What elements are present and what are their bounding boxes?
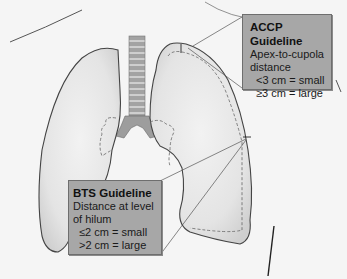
accp-large-criterion: ≥3 cm = large [250, 87, 326, 100]
accp-guideline-callout: ACCP Guideline Apex-to-cupola distance <… [242, 14, 332, 90]
bts-small-criterion: ≤2 cm = small [73, 226, 157, 239]
accp-title: ACCP Guideline [250, 20, 326, 48]
diagram-canvas: ACCP Guideline Apex-to-cupola distance <… [0, 0, 347, 279]
bts-large-criterion: >2 cm = large [73, 239, 157, 252]
left-shoulder-line [10, 10, 82, 42]
accp-small-criterion: <3 cm = small [250, 74, 326, 87]
accp-line-2: distance [250, 61, 326, 74]
bts-line-1: Distance at level [73, 200, 157, 213]
right-side-line [336, 80, 341, 92]
bts-title: BTS Guideline [73, 186, 157, 200]
right-rib-line [268, 226, 274, 276]
bts-guideline-callout: BTS Guideline Distance at level of hilum… [68, 180, 162, 255]
trachea [129, 36, 145, 116]
accp-line-1: Apex-to-cupola [250, 48, 326, 61]
accp-leader-top [193, 17, 242, 46]
bts-line-2: of hilum [73, 213, 157, 226]
